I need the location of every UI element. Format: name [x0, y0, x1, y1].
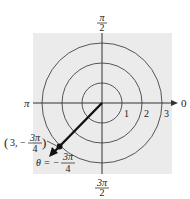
point-label-denominator: 4 [33, 143, 38, 154]
polar-point [57, 144, 63, 150]
angle-label-0: 0 [181, 97, 187, 109]
radial-label-1: 1 [124, 108, 129, 119]
theta-label-prefix: θ = − [36, 157, 59, 168]
axis-arrow-icon [171, 100, 178, 106]
radial-label-2: 2 [144, 108, 149, 119]
point-label-open-paren: ( [4, 135, 8, 150]
angle-label-pi-over-2-denominator: 2 [100, 22, 105, 33]
angle-label-pi: π [24, 97, 30, 109]
point-label-numerator: 3π [29, 132, 41, 143]
point-label-r: 3, − [10, 137, 26, 148]
radial-label-3: 3 [164, 108, 169, 119]
angle-label-3pi-over-2-denominator: 2 [100, 187, 105, 198]
theta-label-numerator: 3π [62, 151, 74, 162]
polar-plot: 1 2 3 0 π π 2 3π 2 ( 3, − 3π 4 ) θ = − 3… [0, 0, 190, 199]
point-label-close-paren: ) [42, 135, 46, 150]
theta-label-denominator: 4 [66, 163, 71, 174]
